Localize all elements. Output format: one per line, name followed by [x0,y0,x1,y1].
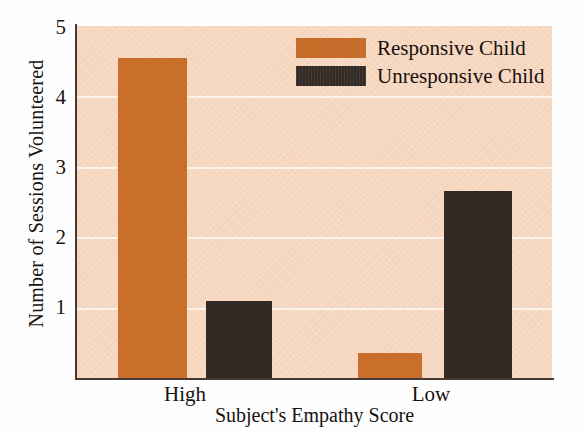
legend-swatch-responsive-icon [296,38,366,58]
chart-legend: Responsive Child Unresponsive Child [296,38,544,94]
bar-low-responsive [358,353,422,378]
y-tick-label-2: 2 [56,227,67,248]
legend-label-unresponsive: Unresponsive Child [377,66,544,87]
y-tick-label-1: 1 [56,297,67,318]
legend-entry-responsive: Responsive Child [296,38,544,58]
x-axis-line [75,378,554,380]
legend-swatch-unresponsive-icon [296,66,366,86]
y-tick-label-5: 5 [56,17,67,38]
legend-label-responsive: Responsive Child [377,38,526,59]
y-tick-label-3: 3 [56,157,67,178]
legend-entry-unresponsive: Unresponsive Child [296,66,544,86]
chart-figure: 5 4 3 2 1 Number of Sessions Volunteered… [0,0,583,433]
x-axis-title: Subject's Empathy Score [77,404,552,427]
bar-high-unresponsive [206,301,272,378]
y-axis-title: Number of Sessions Volunteered [25,34,48,354]
y-tick-label-4: 4 [56,87,67,108]
bar-high-responsive [118,58,187,378]
y-axis-line [75,24,77,380]
bar-low-unresponsive [444,191,512,378]
